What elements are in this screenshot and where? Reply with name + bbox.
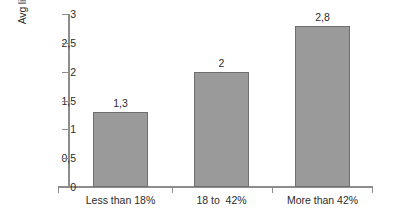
bar-group: 2 [194,14,249,187]
y-axis-tick-mark [62,187,68,188]
category-separator-tick [172,187,173,193]
bar [295,26,350,187]
category-separator-tick [272,187,273,193]
category-separator-tick [58,187,59,193]
bar-value-label: 2,8 [315,11,330,23]
y-axis-tick-mark [62,101,68,102]
y-axis-title: Avg licenses perproducer [13,0,31,50]
bar-chart: Avg licenses perproducer 00,511,522,53 1… [0,0,409,218]
y-axis-tick-mark [62,129,68,130]
y-axis-tick-mark [62,14,68,15]
y-axis-tick-mark [62,43,68,44]
y-axis-tick-mark [62,158,68,159]
bar-group: 2,8 [295,14,350,187]
bar-value-label: 2 [219,57,225,69]
bar [194,72,249,187]
category-separator-tick [372,187,373,193]
x-axis-category-label: Less than 18% [70,194,171,207]
y-axis-tick-mark [62,72,68,73]
bar-group: 1,3 [93,14,148,187]
bar-value-label: 1,3 [113,97,128,109]
x-axis-category-label: More than 42% [272,194,373,207]
x-axis-category-label: 18 to 42% [171,194,272,207]
plot-area: 1,322,8 [70,14,373,187]
bar [93,112,148,187]
